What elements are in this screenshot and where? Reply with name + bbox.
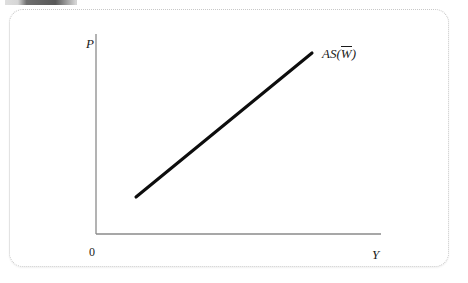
y-axis-label: P: [86, 37, 94, 50]
as-curve-label-suffix: ): [352, 46, 356, 61]
as-curve: [136, 53, 312, 197]
as-curve-label: AS(W): [322, 47, 356, 60]
plot-area: P Y 0 AS(W): [10, 10, 448, 266]
as-curve-plot: [10, 10, 450, 268]
cropped-toolbar-strip: [5, 0, 77, 5]
figure-root: P Y 0 AS(W): [0, 0, 468, 283]
figure-card: P Y 0 AS(W): [9, 9, 449, 267]
as-curve-label-variable: W: [341, 47, 352, 60]
as-curve-label-prefix: AS(: [322, 46, 341, 61]
x-axis-label: Y: [372, 248, 379, 261]
origin-label: 0: [89, 246, 95, 258]
